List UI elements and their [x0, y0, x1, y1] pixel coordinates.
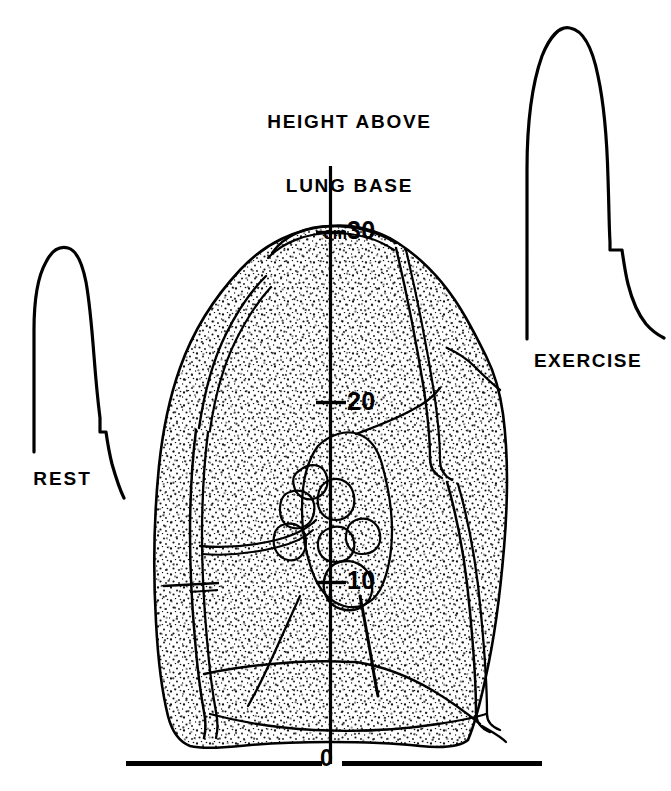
rest-curve-group — [34, 248, 124, 498]
right-basal-border — [482, 726, 506, 742]
axis-units-label: cm — [0, 225, 671, 243]
title-line-2: LUNG BASE — [286, 175, 413, 196]
figure-title: HEIGHT ABOVE LUNG BASE cm — [0, 90, 671, 285]
axis-tick-label-30: 30 — [347, 216, 375, 245]
axis-tick-label-10: 10 — [347, 566, 375, 595]
rest-curve-label: REST — [0, 468, 125, 489]
title-line-1: HEIGHT ABOVE — [267, 111, 431, 132]
rest-curve — [34, 248, 124, 498]
lung-blood-flow-figure: HEIGHT ABOVE LUNG BASE cm 30 20 10 0 RES… — [0, 0, 671, 791]
exercise-curve-label: EXERCISE — [505, 350, 671, 371]
axis-tick-label-20: 20 — [347, 387, 375, 416]
axis-tick-label-0: 0 — [320, 745, 333, 772]
